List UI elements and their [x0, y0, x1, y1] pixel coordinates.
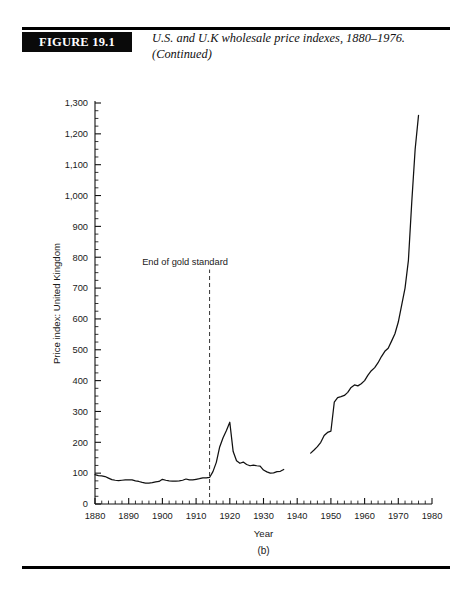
x-tick-label: 1980 [422, 511, 443, 521]
y-axis-title: Price index: United Kingdom [51, 243, 62, 364]
y-tick-label: 500 [72, 345, 88, 355]
x-tick-label: 1960 [354, 511, 375, 521]
y-tick-label: 1,000 [65, 191, 88, 201]
data-line-1944-1976 [311, 115, 419, 453]
x-tick-label: 1900 [152, 511, 173, 521]
y-tick-label: 1,200 [65, 129, 88, 139]
data-line-1880-1936 [95, 422, 284, 483]
footer-rule [22, 566, 450, 569]
panel-label: (b) [257, 545, 269, 556]
x-tick-label: 1930 [253, 511, 274, 521]
y-tick-label: 700 [72, 283, 88, 293]
figure-page: FIGURE 19.1 U.S. and U.K wholesale price… [0, 0, 472, 594]
x-tick-label: 1910 [186, 511, 207, 521]
x-tick-label: 1890 [118, 511, 139, 521]
line-chart-svg: 01002003004005006007008009001,0001,1001,… [0, 0, 472, 594]
y-tick-label: 400 [72, 376, 88, 386]
x-tick-label: 1920 [219, 511, 240, 521]
y-tick-label: 100 [72, 468, 88, 478]
y-tick-label: 300 [72, 407, 88, 417]
annotation-label: End of gold standard [142, 257, 228, 267]
y-tick-label: 900 [72, 222, 88, 232]
x-tick-label: 1950 [321, 511, 342, 521]
y-tick-label: 0 [83, 499, 88, 509]
x-tick-label: 1880 [85, 511, 106, 521]
chart-area: 01002003004005006007008009001,0001,1001,… [0, 0, 472, 594]
x-tick-label: 1940 [287, 511, 308, 521]
x-tick-label: 1970 [388, 511, 409, 521]
y-tick-label: 200 [72, 438, 88, 448]
y-tick-label: 1,300 [65, 98, 88, 108]
y-tick-label: 1,100 [65, 160, 88, 170]
x-axis-title: Year [254, 528, 274, 539]
y-tick-label: 800 [72, 253, 88, 263]
y-tick-label: 600 [72, 314, 88, 324]
